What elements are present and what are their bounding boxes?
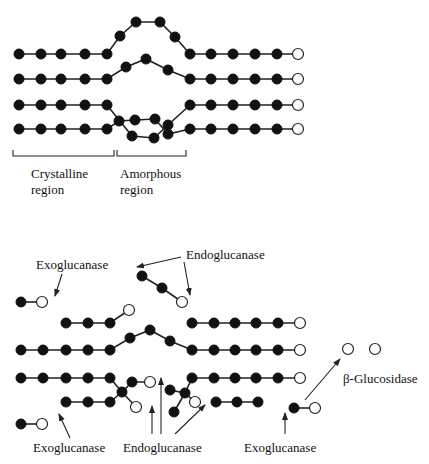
chain-row-2 xyxy=(14,54,304,85)
oligosaccharide-fragment xyxy=(137,271,188,308)
arrow-exo-top xyxy=(55,274,62,296)
crystalline-label-line1: Crystalline xyxy=(31,166,88,181)
amorphous-label-line1: Amorphous xyxy=(120,166,181,181)
arrow-endo-bottom-3 xyxy=(175,405,205,434)
arrow-endo-top-left xyxy=(137,257,181,267)
hydrolysis-diagram: Exoglucanase Endoglucanase xyxy=(16,247,418,455)
cellobiose-fragment xyxy=(16,297,48,308)
chain-row-1 xyxy=(14,17,304,60)
amorphous-bracket xyxy=(117,150,186,156)
arrow-exo-bottom-left xyxy=(59,414,70,438)
endoglucanase-label-top: Endoglucanase xyxy=(186,247,265,262)
reducing-end-icon xyxy=(293,74,304,85)
glucose-icon xyxy=(343,344,354,355)
cellobiose-fragment-right xyxy=(289,403,321,414)
reducing-end-icon xyxy=(293,49,304,60)
cellulose-chains-top xyxy=(14,17,304,143)
exoglucanase-label-bottom-right: Exoglucanase xyxy=(244,440,316,455)
beta-glucosidase-label: β-Glucosidase xyxy=(343,371,418,386)
reducing-end-icon xyxy=(293,100,304,111)
chain-b-intact xyxy=(16,325,306,356)
exoglucanase-label-bottom-left: Exoglucanase xyxy=(33,440,105,455)
cellobiose-fragment-bottom xyxy=(16,419,48,430)
endoglucanase-label-bottom: Endoglucanase xyxy=(123,440,202,455)
arrow-endo-top-right xyxy=(184,262,190,295)
region-brackets xyxy=(13,150,186,156)
chain-fragment-a-right xyxy=(187,318,306,329)
reducing-end-icon xyxy=(293,124,304,135)
amorphous-label-line2: region xyxy=(120,182,154,197)
chain-c-left xyxy=(16,373,156,413)
chain-fragment-d xyxy=(211,397,263,407)
glucose-icon xyxy=(370,344,381,355)
cellulose-degradation-diagram: Crystalline region Amorphous region Exog… xyxy=(0,0,429,464)
chain-c-right xyxy=(165,373,306,418)
arrow-beta-glucosidase xyxy=(305,359,340,400)
exoglucanase-label-top: Exoglucanase xyxy=(36,257,108,272)
chain-fragment-a-left xyxy=(61,305,135,329)
crystalline-label-line2: region xyxy=(31,182,65,197)
crystalline-bracket xyxy=(13,150,114,156)
